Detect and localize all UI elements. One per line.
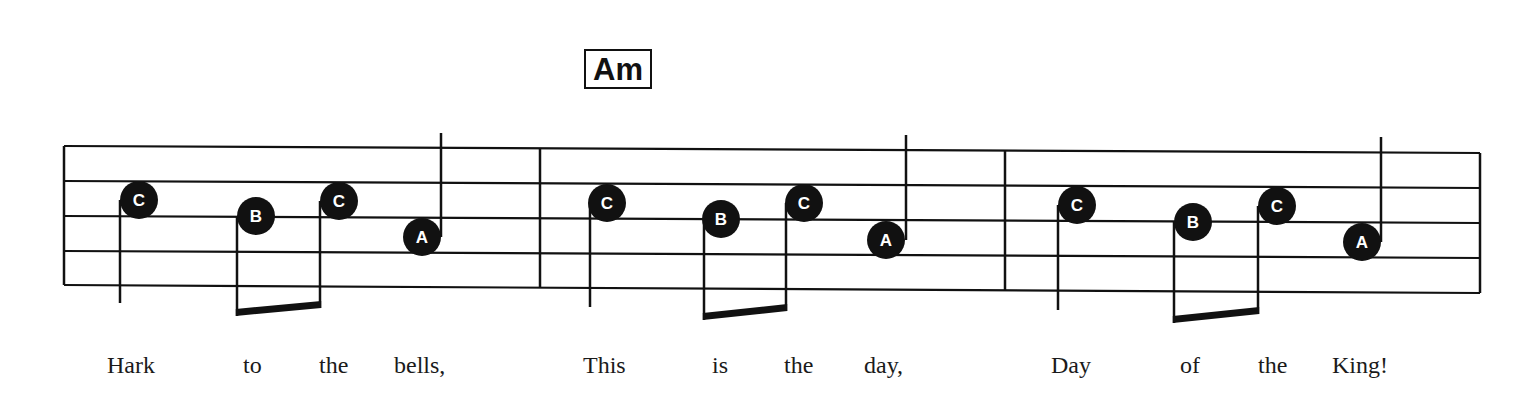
note-letter: A — [880, 231, 892, 250]
note-letter: B — [715, 210, 727, 229]
note-letter: C — [1271, 197, 1283, 216]
note-letter: B — [1187, 213, 1199, 232]
note-letter: C — [1071, 196, 1083, 215]
lyric-word: to — [243, 352, 262, 379]
staff-line — [64, 146, 1480, 153]
note-letter: C — [333, 192, 345, 211]
staff-line — [64, 285, 1480, 293]
chord-label: Am — [593, 54, 643, 85]
note-c: C — [320, 182, 358, 308]
lyric-word: Day — [1051, 352, 1091, 379]
note-b: B — [1174, 203, 1212, 323]
note-b: B — [237, 197, 275, 316]
note-a: A — [403, 133, 441, 256]
note-letter: A — [1356, 233, 1368, 252]
note-letter: C — [133, 191, 145, 210]
lyric-word: is — [712, 352, 728, 379]
note-a: A — [867, 135, 906, 259]
lyric-word: King! — [1332, 352, 1388, 379]
note-c: C — [1258, 187, 1296, 314]
lyric-word: This — [583, 352, 626, 379]
music-staff: CBCACBCACBCA — [0, 0, 1518, 405]
lyric-word: of — [1180, 352, 1200, 379]
lyric-word: the — [1258, 352, 1287, 379]
note-letter: B — [250, 207, 262, 226]
lyric-word: the — [784, 352, 813, 379]
beam — [703, 304, 787, 320]
note-c: C — [785, 184, 823, 311]
staff-line — [64, 251, 1480, 258]
lyric-word: day, — [864, 352, 903, 379]
lyric-word: the — [319, 352, 348, 379]
beam — [1173, 307, 1259, 323]
beam — [236, 301, 321, 316]
notes: CBCACBCACBCA — [120, 133, 1381, 323]
chord-symbol: Am — [584, 49, 652, 89]
staff-line — [64, 181, 1480, 188]
note-a: A — [1343, 137, 1381, 261]
lyric-word: Hark — [107, 352, 155, 379]
note-b: B — [702, 200, 740, 320]
note-letter: C — [798, 194, 810, 213]
lyric-word: bells, — [394, 352, 445, 379]
note-letter: A — [416, 228, 428, 247]
note-letter: C — [601, 194, 613, 213]
